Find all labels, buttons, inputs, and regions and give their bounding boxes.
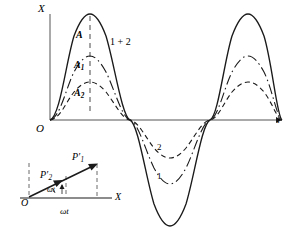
wave-x-axis-label: t <box>277 116 280 125</box>
phasor-subscript-1: 1 <box>80 156 84 164</box>
phasor-base-label: ωt <box>60 207 69 216</box>
amplitude-subscript-1: 1 <box>81 64 85 72</box>
amplitude-label-resultant: A <box>76 30 83 40</box>
wave-superposition-figure: X t O A A1 A2 1 + 2 2 1 O X P′1 P′2 ωt ω… <box>0 0 287 236</box>
wave-plot-axes <box>50 14 282 120</box>
amplitude-letter-a2: A <box>74 87 81 98</box>
wave-y-axis-label: X <box>38 3 45 14</box>
phasor-x-axis-label: X <box>115 192 121 202</box>
phasor-vector-1-label: P′1 <box>72 152 84 164</box>
phasor-origin-label: O <box>21 198 28 208</box>
phasor-angle-arrow-icon <box>60 184 65 189</box>
wave-origin-label: O <box>36 123 44 134</box>
phasor-subscript-2: 2 <box>48 174 52 182</box>
phasor-angle-label: ωt <box>47 186 55 194</box>
phasor-diagram <box>20 163 112 198</box>
curve-label-2: 2 <box>157 143 162 152</box>
amplitude-subscript-2: 2 <box>81 92 85 100</box>
amplitude-label-wave1: A1 <box>74 60 84 72</box>
phasor-vector-2-label: P′2 <box>40 170 52 182</box>
figure-canvas <box>0 0 287 236</box>
curve-label-1: 1 <box>157 172 162 181</box>
amplitude-letter-a1: A <box>74 59 81 70</box>
amplitude-letter-a: A <box>76 29 83 40</box>
amplitude-label-wave2: A2 <box>74 88 84 100</box>
curve-label-sum: 1 + 2 <box>110 37 131 47</box>
